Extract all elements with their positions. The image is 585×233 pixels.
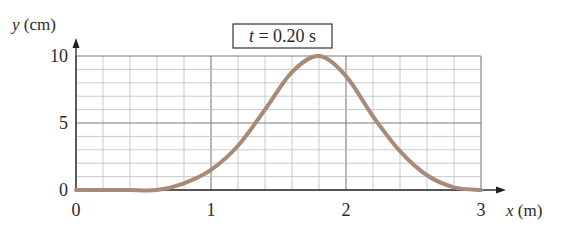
y-tick-label: 5: [59, 113, 68, 133]
x-tick-labels: 0123: [72, 200, 486, 220]
y-tick-labels: 0510: [50, 46, 68, 200]
x-tick-label: 1: [207, 200, 216, 220]
time-label-box: t = 0.20 s: [233, 24, 332, 48]
x-tick-label: 2: [342, 200, 351, 220]
x-tick-label: 3: [477, 200, 486, 220]
y-axis-label: y (cm): [10, 15, 56, 34]
y-tick-label: 0: [59, 180, 68, 200]
axes: [73, 38, 507, 194]
x-axis-label: x (m): [505, 201, 542, 220]
x-tick-label: 0: [72, 200, 81, 220]
chart: 0510 0123 y (cm) x (m) t = 0.20 s: [0, 0, 585, 233]
y-axis-arrow-icon: [73, 38, 80, 48]
svg-text:t = 0.20 s: t = 0.20 s: [249, 26, 316, 46]
x-axis-arrow-icon: [496, 187, 506, 194]
y-tick-label: 10: [50, 46, 68, 66]
time-value: = 0.20 s: [254, 26, 316, 46]
